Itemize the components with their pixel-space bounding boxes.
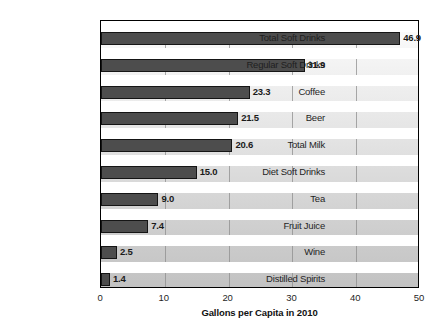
x-tick-label: 40 <box>350 292 360 303</box>
bar <box>101 246 117 259</box>
bar-value-label: 46.9 <box>403 31 421 44</box>
category-label: Tea <box>235 192 331 205</box>
bar-value-label: 7.4 <box>151 219 164 232</box>
x-tick-label: 20 <box>222 292 232 303</box>
bar <box>101 273 110 286</box>
category-label: Wine <box>235 245 331 258</box>
bar-value-label: 15.0 <box>200 165 218 178</box>
category-label: Total Soft Drinks <box>235 31 331 44</box>
bar-value-label: 2.5 <box>120 245 133 258</box>
bar-chart-figure: Total Soft DrinksRegular Soft DrinksCoff… <box>0 0 431 326</box>
bar <box>101 112 238 125</box>
category-label: Distilled Spirits <box>235 272 331 285</box>
x-tick-label: 0 <box>97 292 102 303</box>
x-tick-label: 30 <box>286 292 296 303</box>
bar-value-label: 21.5 <box>241 111 259 124</box>
bar <box>101 139 232 152</box>
bar <box>101 220 148 233</box>
bar-value-label: 23.3 <box>253 85 271 98</box>
bar-value-label: 31.9 <box>308 58 326 71</box>
category-label: Fruit Juice <box>235 219 331 232</box>
bar <box>101 86 250 99</box>
bar <box>101 166 197 179</box>
bar-value-label: 20.6 <box>235 138 253 151</box>
category-label: Diet Soft Drinks <box>235 165 331 178</box>
x-tick-label: 10 <box>159 292 169 303</box>
bar-value-label: 1.4 <box>113 272 126 285</box>
bar-value-label: 9.0 <box>161 192 174 205</box>
bar <box>101 193 158 206</box>
x-axis-title: Gallons per Capita in 2010 <box>100 307 419 318</box>
x-tick-label: 50 <box>414 292 424 303</box>
category-label: Coffee <box>235 85 331 98</box>
